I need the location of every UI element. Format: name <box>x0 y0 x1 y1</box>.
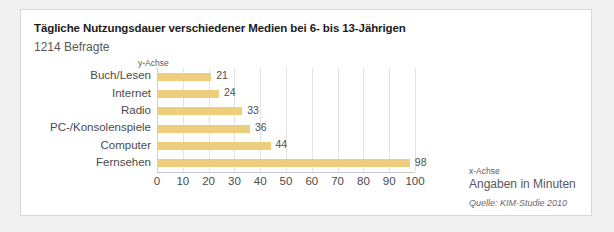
bar-value-label: 33 <box>247 104 259 116</box>
bar-value-label: 21 <box>216 69 228 81</box>
bar-row: 44 <box>157 137 415 154</box>
page-title: Tägliche Nutzungsdauer verschiedener Med… <box>34 22 406 34</box>
bar-value-label: 36 <box>255 121 267 133</box>
bar-row: 24 <box>157 85 415 102</box>
bar <box>157 159 410 167</box>
category-label: Radio <box>121 104 151 116</box>
bar <box>157 142 271 150</box>
x-tick-50: 50 <box>280 175 293 187</box>
bar-value-label: 44 <box>276 138 288 150</box>
bar-row: 98 <box>157 155 415 172</box>
x-axis-line <box>157 172 415 173</box>
category-label: Internet <box>112 87 151 99</box>
x-axis-caption: x-Achse <box>469 167 576 177</box>
x-tick-60: 60 <box>305 175 318 187</box>
x-tick-10: 10 <box>176 175 189 187</box>
x-tick-0: 0 <box>154 175 160 187</box>
source-attribution: Quelle: KIM-Studie 2010 <box>469 198 567 208</box>
bar <box>157 90 219 98</box>
chart-subtitle: 1214 Befragte <box>34 40 109 54</box>
bar <box>157 125 250 133</box>
x-tick-20: 20 <box>202 175 215 187</box>
y-axis-caption: y-Achse <box>138 58 169 68</box>
y-axis-category-labels: Buch/LesenInternetRadioPC-/Konsolenspiel… <box>21 68 151 172</box>
chart-card: Tägliche Nutzungsdauer verschiedener Med… <box>20 9 592 216</box>
x-tick-80: 80 <box>357 175 370 187</box>
bar-value-label: 98 <box>415 156 427 168</box>
x-axis-unit: Angaben in Minuten <box>469 178 576 192</box>
bar-value-label: 24 <box>224 86 236 98</box>
x-tick-70: 70 <box>331 175 344 187</box>
bar <box>157 107 242 115</box>
bar <box>157 73 211 81</box>
bar-row: 33 <box>157 103 415 120</box>
x-tick-100: 100 <box>405 175 424 187</box>
x-axis-note: x-Achse Angaben in Minuten <box>469 167 576 192</box>
category-label: Fernsehen <box>96 156 151 168</box>
category-label: Computer <box>101 139 152 151</box>
x-tick-30: 30 <box>228 175 241 187</box>
bar-row: 36 <box>157 120 415 137</box>
bar-row: 21 <box>157 68 415 85</box>
category-label: PC-/Konsolenspiele <box>50 121 151 133</box>
x-axis-tick-labels: 0102030405060708090100 <box>157 175 415 191</box>
x-tick-90: 90 <box>383 175 396 187</box>
x-tick-40: 40 <box>254 175 267 187</box>
category-label: Buch/Lesen <box>90 69 151 81</box>
plot-area: 212433364498 <box>157 68 415 172</box>
